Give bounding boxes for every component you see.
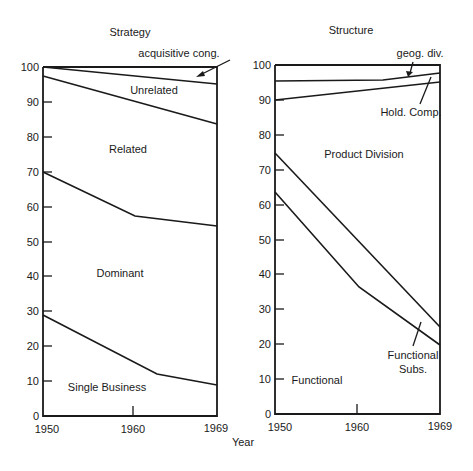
hold-comp-leader xyxy=(420,77,431,104)
svg-text:0: 0 xyxy=(33,410,39,422)
svg-text:0: 0 xyxy=(265,408,271,420)
strategy-panel: Strategy 0 10 20 30 40 50 60 70 80 xyxy=(21,26,230,435)
strategy-title: Strategy xyxy=(110,26,151,38)
svg-text:20: 20 xyxy=(27,340,39,352)
svg-text:1969: 1969 xyxy=(204,422,228,434)
geog-div-boundary-line xyxy=(275,73,440,81)
related-dominant-boundary-line xyxy=(43,172,217,226)
structure-x-tick-labels: 1950 1960 1969 xyxy=(268,420,452,433)
svg-text:80: 80 xyxy=(259,129,271,141)
product-division-label: Product Division xyxy=(324,148,403,160)
svg-text:1950: 1950 xyxy=(268,421,292,433)
dominant-single-boundary-line xyxy=(43,315,217,385)
svg-text:1969: 1969 xyxy=(428,420,452,432)
geog-div-arrow xyxy=(410,62,413,73)
acquisitive-boundary-line xyxy=(43,67,217,84)
svg-text:1960: 1960 xyxy=(121,423,145,435)
related-label: Related xyxy=(109,143,147,155)
structure-y-tick-labels: 0 10 20 30 40 50 60 70 80 90 100 xyxy=(253,59,271,420)
svg-text:90: 90 xyxy=(259,94,271,106)
svg-text:10: 10 xyxy=(27,375,39,387)
svg-text:50: 50 xyxy=(27,236,39,248)
svg-text:20: 20 xyxy=(259,338,271,350)
hold-comp-label: Hold. Comp. xyxy=(380,106,441,118)
functional-subs-boundary-line xyxy=(275,192,440,345)
x-axis-label: Year xyxy=(232,436,255,448)
svg-text:70: 70 xyxy=(259,164,271,176)
hold-comp-boundary-line xyxy=(275,82,440,100)
svg-text:100: 100 xyxy=(253,59,271,71)
svg-text:90: 90 xyxy=(27,96,39,108)
svg-text:1960: 1960 xyxy=(345,421,369,433)
svg-text:40: 40 xyxy=(259,268,271,280)
single-business-label: Single Business xyxy=(68,381,147,393)
structure-panel: Structure 0 10 20 30 40 50 60 70 80 90 1… xyxy=(253,24,453,433)
acquisitive-label: acquisitive cong. xyxy=(138,47,219,59)
arrow-head-icon xyxy=(196,71,205,77)
functional-subs-label-line2: Subs. xyxy=(399,363,427,375)
svg-text:10: 10 xyxy=(259,373,271,385)
geog-div-label: geog. div. xyxy=(397,47,444,59)
structure-title: Structure xyxy=(329,24,374,36)
dominant-label: Dominant xyxy=(96,267,143,279)
svg-text:40: 40 xyxy=(27,270,39,282)
functional-subs-label-line1: Functional xyxy=(388,349,439,361)
svg-text:70: 70 xyxy=(27,166,39,178)
svg-text:60: 60 xyxy=(27,201,39,213)
functional-label: Functional xyxy=(292,374,343,386)
svg-text:50: 50 xyxy=(259,234,271,246)
strategy-x-tick-labels: 1950 1960 1969 xyxy=(35,422,228,435)
svg-text:30: 30 xyxy=(27,305,39,317)
svg-text:80: 80 xyxy=(27,131,39,143)
product-division-boundary-line xyxy=(275,153,440,327)
svg-text:30: 30 xyxy=(259,303,271,315)
strategy-y-tick-labels: 0 10 20 30 40 50 60 70 80 90 100 xyxy=(21,61,39,422)
svg-text:100: 100 xyxy=(21,61,39,73)
chart-figure: Strategy 0 10 20 30 40 50 60 70 80 xyxy=(0,0,473,471)
svg-text:1950: 1950 xyxy=(35,423,59,435)
svg-text:60: 60 xyxy=(259,199,271,211)
unrelated-label: Unrelated xyxy=(130,84,178,96)
strategy-frame xyxy=(43,67,217,416)
